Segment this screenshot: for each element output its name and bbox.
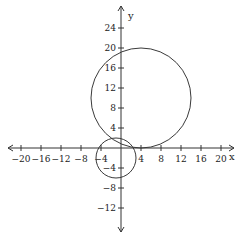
y-axis-label: y [127,10,134,21]
x-tick-label: −8 [74,154,88,164]
y-tick-label: 16 [105,63,117,73]
axes: −20−16−12−8−448121620 2420161284−4−8−12 … [8,6,235,232]
y-tick-label: 8 [110,103,116,113]
x-axis-label: x [229,151,235,162]
x-tick-label: −16 [32,154,51,164]
x-tick-label: 4 [138,154,144,164]
x-tick-label: 12 [175,154,186,164]
y-tick-label: 20 [105,43,117,53]
x-tick-label: −12 [52,154,71,164]
y-ticks: 2420161284−4−8−12 [97,23,124,213]
y-tick-label: −12 [97,203,116,213]
x-tick-label: 16 [195,154,207,164]
x-tick-label: 20 [215,154,227,164]
x-tick-label: −20 [12,154,31,164]
y-tick-label: −8 [103,183,117,193]
y-tick-label: −4 [103,163,117,173]
y-tick-label: 4 [110,123,116,133]
y-tick-label: 12 [105,83,116,93]
y-tick-label: 24 [105,23,117,33]
coordinate-plane: −20−16−12−8−448121620 2420161284−4−8−12 … [0,0,236,236]
x-tick-label: 8 [158,154,164,164]
